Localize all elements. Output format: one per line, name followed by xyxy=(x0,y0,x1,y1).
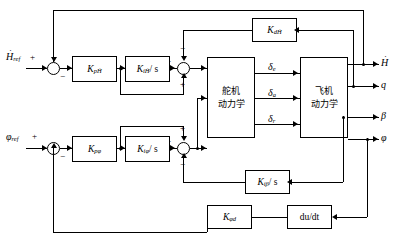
wire-h-dot-fb-down-to-summer xyxy=(53,10,54,62)
block-kp-hdot: KpḢ xyxy=(72,56,117,82)
sign-minus-phi-input: − xyxy=(60,152,65,161)
block-ki-phi: Kiφ/ s xyxy=(125,136,170,162)
arrow-h-inner-left-in xyxy=(170,65,175,71)
output-label-h-dot: · H xyxy=(381,58,388,68)
arrow-phi-ref-in xyxy=(42,145,47,151)
control-block-diagram: · Href + φref + − − − + + + + − KpḢ KiH… xyxy=(0,0,397,242)
block-kd-phi: Kφd xyxy=(207,205,252,229)
wire-ki-beta-out-left xyxy=(183,182,245,183)
output-label-q: q xyxy=(381,80,386,90)
block-ki-hdot: KiḢ/ s xyxy=(125,56,170,82)
input-label-h-ref: · Href xyxy=(6,52,20,63)
wire-ki-beta-up-to-summer xyxy=(183,158,184,182)
wire-h-dot-fb-across-top xyxy=(53,10,364,11)
plant-actuator-dynamics: 舵机动力学 xyxy=(207,57,255,138)
arrow-actuator-in-e xyxy=(201,65,206,71)
arrow-kp-hdot-in xyxy=(67,65,72,71)
block-derivative: du/dt xyxy=(287,205,332,229)
wire-kp-phi-bypass-across xyxy=(120,126,184,127)
wire-beta-fb-to-ki-beta xyxy=(290,182,343,183)
arrow-airframe-in-r xyxy=(293,121,298,127)
wire-phi-branch-up-to-aileron xyxy=(197,98,198,148)
wire-kd-hdot-down-to-summer xyxy=(183,30,184,58)
output-label-beta: β xyxy=(381,111,386,121)
wire-derivative-to-kd-phi xyxy=(252,217,287,218)
wire-phi-fb-down-to-derivative xyxy=(367,138,368,217)
wire-kd-phi-out-left xyxy=(53,232,207,233)
wire-kd-phi-out-down xyxy=(207,217,208,232)
output-label-phi: φ xyxy=(381,133,387,143)
arrow-h-ref-in xyxy=(42,65,47,71)
wire-kp-hdot-bypass-up xyxy=(183,76,184,94)
arrow-actuator-in-r xyxy=(201,145,206,151)
arrow-output-h-dot xyxy=(373,61,378,67)
wire-kp-hdot-bypass-across xyxy=(120,94,184,95)
arrow-h-inner-top-in xyxy=(181,56,187,61)
block-kp-phi: Kpφ xyxy=(72,136,117,162)
wire-phi-fb-up-to-summer xyxy=(53,148,54,232)
wire-kp-hdot-bypass-down xyxy=(120,68,121,94)
sign-plus-h-input: + xyxy=(30,53,35,62)
arrow-phi-inner-top-in xyxy=(181,136,187,141)
plant-airframe-dynamics: 飞机动力学 xyxy=(300,57,348,138)
sign-plus-phi-input: + xyxy=(32,132,37,141)
arrow-actuator-in-a xyxy=(201,95,206,101)
wire-beta-fb-down xyxy=(343,116,344,182)
input-label-phi-ref: φref xyxy=(6,132,19,143)
arrow-airframe-in-e xyxy=(293,70,298,76)
arrow-output-phi xyxy=(373,136,378,142)
arrow-phi-inner-bottom-in xyxy=(181,153,187,158)
wire-q-fb-to-kd-block xyxy=(297,30,353,31)
arrow-h-input-summer-top xyxy=(51,57,57,62)
signal-label-delta-e: δe xyxy=(268,62,276,73)
sign-minus-h-input: − xyxy=(60,72,65,81)
arrow-kp-phi-in xyxy=(67,145,72,151)
arrow-airframe-in-a xyxy=(293,95,298,101)
arrow-ki-beta-in xyxy=(287,179,292,185)
arrow-phi-inner-left-in xyxy=(170,145,175,151)
wire-q-fb-up xyxy=(353,30,354,86)
arrow-kd-hdot-in xyxy=(294,27,299,33)
arrow-output-beta xyxy=(373,114,378,120)
arrow-output-q xyxy=(373,83,378,89)
summer-h-input xyxy=(47,62,60,75)
block-ki-beta: Kiβ/ s xyxy=(245,170,290,194)
wire-h-dot-fb-up xyxy=(363,10,364,64)
block-kd-hdot: KdḢ xyxy=(252,18,297,42)
arrow-h-inner-bottom-in xyxy=(181,73,187,78)
wire-kp-phi-bypass-up xyxy=(120,126,121,148)
arrow-phi-input-summer-bottom xyxy=(51,143,57,148)
arrow-derivative-in xyxy=(332,214,337,220)
wire-kd-hdot-out-left xyxy=(183,30,252,31)
wire-phi-fb-into-derivative xyxy=(335,217,367,218)
